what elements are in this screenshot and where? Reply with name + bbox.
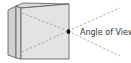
angle-of-view-label: Angle of View — [80, 28, 131, 37]
angle-of-view-diagram: Angle of View — [0, 0, 131, 63]
camera-side-panel — [8, 6, 16, 58]
camera-inner-panel — [16, 6, 21, 59]
camera-body — [8, 3, 69, 59]
lens-point-icon — [67, 29, 71, 34]
camera-front-face — [21, 4, 69, 59]
